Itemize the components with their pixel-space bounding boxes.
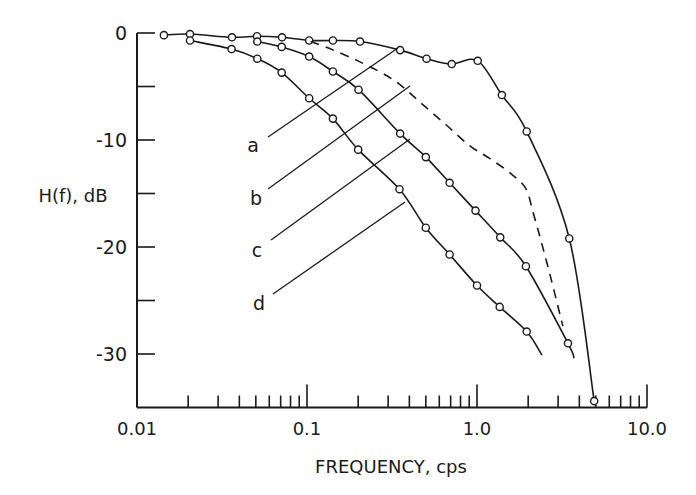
data-point-marker [422, 224, 429, 231]
y-tick-label: 0 [115, 22, 127, 44]
frequency-response-chart: 0-10-20-30 0.010.11.010.0 H(f), dB FREQU… [0, 0, 696, 495]
data-point-marker [496, 303, 503, 310]
curve-labels: abcd [247, 48, 410, 314]
data-point-marker [474, 57, 481, 64]
data-point-marker [446, 251, 453, 258]
axes: 0-10-20-30 0.010.11.010.0 [96, 22, 667, 439]
data-point-marker [523, 128, 530, 135]
data-point-marker [566, 235, 573, 242]
data-point-marker [306, 53, 313, 60]
series-c [254, 38, 574, 358]
data-point-marker [329, 37, 336, 44]
curve-letter: b [250, 187, 262, 209]
data-point-marker [228, 45, 235, 52]
data-point-marker [591, 397, 598, 404]
data-point-marker [564, 340, 571, 347]
data-point-marker [446, 179, 453, 186]
data-point-marker [522, 263, 529, 270]
y-tick-label: -30 [96, 343, 127, 365]
data-point-marker [228, 34, 235, 41]
y-axis-title: H(f), dB [38, 185, 107, 206]
data-point-marker [422, 154, 429, 161]
data-point-marker [329, 115, 336, 122]
data-point-marker [306, 37, 313, 44]
x-tick-label: 10.0 [627, 418, 667, 439]
leader-line [268, 48, 398, 137]
data-point-marker [523, 328, 530, 335]
chart-canvas: 0-10-20-30 0.010.11.010.0 H(f), dB FREQU… [0, 0, 696, 495]
y-tick-label: -20 [96, 236, 127, 258]
x-tick-label: 0.01 [117, 418, 157, 439]
y-tick-label: -10 [96, 129, 127, 151]
data-point-marker [498, 91, 505, 98]
leader-line [268, 86, 410, 189]
data-point-marker [356, 38, 363, 45]
data-point-marker [355, 86, 362, 93]
data-point-marker [186, 37, 193, 44]
curve-letter: a [247, 134, 259, 156]
data-point-marker [329, 68, 336, 75]
data-point-marker [448, 60, 455, 67]
data-point-marker [397, 130, 404, 137]
leader-line [273, 202, 405, 294]
data-point-marker [396, 186, 403, 193]
x-tick-label: 0.1 [293, 418, 322, 439]
curve-label-d: d [253, 202, 405, 314]
curve-label-c: c [252, 139, 410, 261]
data-point-marker [278, 34, 285, 41]
data-point-marker [423, 55, 430, 62]
x-axis-ticks: 0.010.11.010.0 [117, 385, 667, 439]
curve-a [164, 34, 594, 401]
curve-label-b: b [250, 86, 410, 209]
curve-letter: c [252, 239, 262, 261]
data-point-marker [278, 43, 285, 50]
data-point-marker [473, 282, 480, 289]
data-point-marker [355, 146, 362, 153]
data-point-marker [278, 69, 285, 76]
data-point-marker [306, 95, 313, 102]
x-tick-label: 1.0 [463, 418, 492, 439]
x-axis-title: FREQUENCY, cps [315, 456, 467, 477]
data-series [160, 30, 597, 404]
data-point-marker [254, 55, 261, 62]
data-point-marker [497, 234, 504, 241]
data-point-marker [472, 207, 479, 214]
curve-letter: d [253, 292, 265, 314]
leader-line [271, 139, 410, 240]
series-a [160, 30, 597, 404]
data-point-marker [160, 32, 167, 39]
data-point-marker [254, 38, 261, 45]
curve-d [190, 40, 542, 355]
series-d [186, 37, 542, 355]
curve-c [257, 42, 574, 359]
